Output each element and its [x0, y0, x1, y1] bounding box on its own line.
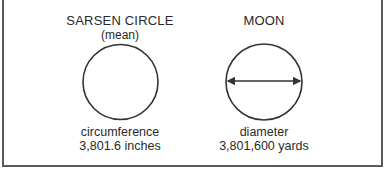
moon-measure-value: 3,801,600 yards — [189, 139, 339, 153]
sarsen-circle-title: SARSEN CIRCLE — [45, 13, 195, 28]
sarsen-circle-shape — [83, 45, 158, 120]
moon-header: MOON — [189, 13, 339, 28]
sarsen-circle-caption: circumference 3,801.6 inches — [45, 125, 195, 153]
moon-title: MOON — [189, 13, 339, 28]
sarsen-measure-value: 3,801.6 inches — [45, 139, 195, 153]
moon-circle-shape — [226, 44, 302, 120]
moon-measure-label: diameter — [189, 125, 339, 139]
sarsen-circle-header: SARSEN CIRCLE (mean) — [45, 13, 195, 42]
sarsen-circle-subtitle: (mean) — [45, 28, 195, 42]
moon-caption: diameter 3,801,600 yards — [189, 125, 339, 153]
sarsen-measure-label: circumference — [45, 125, 195, 139]
